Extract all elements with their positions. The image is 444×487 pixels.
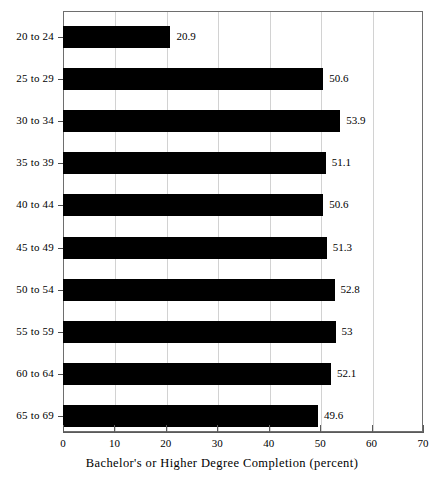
bar-row: 52.8 — [63, 279, 423, 301]
bar-row: 49.6 — [63, 405, 423, 427]
bar-row: 52.1 — [63, 363, 423, 385]
bar — [63, 110, 340, 132]
bar-row: 50.6 — [63, 68, 423, 90]
bar-value-label: 50.6 — [329, 72, 348, 85]
x-axis-tick-mark — [63, 425, 64, 432]
bar-row: 53 — [63, 321, 423, 343]
bar-row: 51.1 — [63, 152, 423, 174]
y-axis-tick-mark — [58, 248, 63, 249]
x-axis-tick-mark — [166, 425, 167, 432]
bar-value-label: 51.1 — [332, 156, 351, 169]
x-axis-tick-mark — [372, 425, 373, 432]
bar-row: 20.9 — [63, 26, 423, 48]
bar-value-label: 49.6 — [324, 409, 343, 422]
y-axis-tick-label: 40 to 44 — [16, 198, 54, 211]
y-axis-tick-mark — [58, 290, 63, 291]
x-axis-tick-label: 20 — [160, 437, 171, 450]
bar-value-label: 52.1 — [337, 367, 356, 380]
bar — [63, 152, 326, 174]
bar — [63, 68, 323, 90]
y-axis-tick-label: 55 to 59 — [16, 325, 54, 338]
x-axis-tick-mark — [269, 425, 270, 432]
x-axis-tick-label: 0 — [60, 437, 66, 450]
x-axis-title: Bachelor's or Higher Degree Completion (… — [0, 455, 444, 471]
x-axis-tick-label: 40 — [263, 437, 274, 450]
bar — [63, 26, 170, 48]
x-axis-tick-mark — [217, 425, 218, 432]
bar — [63, 237, 327, 259]
x-axis-tick-mark — [320, 425, 321, 432]
y-axis-tick-label: 35 to 39 — [16, 156, 54, 169]
y-axis-tick-label: 60 to 64 — [16, 367, 54, 380]
y-axis-tick-label: 20 to 24 — [16, 30, 54, 43]
bar-row: 50.6 — [63, 194, 423, 216]
y-axis-tick-mark — [58, 163, 63, 164]
bar-value-label: 53.9 — [346, 114, 365, 127]
y-axis-tick-mark — [58, 121, 63, 122]
y-axis-tick-mark — [58, 205, 63, 206]
bars-layer: 20.950.653.951.150.651.352.85352.149.6 — [63, 11, 423, 432]
y-axis-tick-mark — [58, 332, 63, 333]
x-axis-tick-mark — [423, 425, 424, 432]
y-axis-tick-mark — [58, 374, 63, 375]
x-axis-tick-label: 70 — [418, 437, 429, 450]
x-axis-tick-label: 10 — [109, 437, 120, 450]
y-axis-tick-label: 65 to 69 — [16, 409, 54, 422]
bar — [63, 321, 336, 343]
y-axis-labels: 20 to 2425 to 2930 to 3435 to 3940 to 44… — [0, 11, 63, 432]
bar-row: 53.9 — [63, 110, 423, 132]
x-axis-tick-label: 60 — [366, 437, 377, 450]
bar — [63, 279, 335, 301]
y-axis-tick-label: 30 to 34 — [16, 114, 54, 127]
y-axis-tick-label: 50 to 54 — [16, 283, 54, 296]
bar — [63, 363, 331, 385]
x-axis-tick-label: 50 — [315, 437, 326, 450]
bar — [63, 194, 323, 216]
bar — [63, 405, 318, 427]
y-axis-tick-mark — [58, 416, 63, 417]
bar-row: 51.3 — [63, 237, 423, 259]
y-axis-tick-label: 25 to 29 — [16, 72, 54, 85]
bar-value-label: 53 — [342, 325, 353, 338]
bar-value-label: 50.6 — [329, 198, 348, 211]
y-axis-tick-mark — [58, 37, 63, 38]
bar-chart: 20.950.653.951.150.651.352.85352.149.6 2… — [0, 0, 444, 487]
x-axis-tick-mark — [114, 425, 115, 432]
bar-value-label: 20.9 — [176, 30, 195, 43]
bar-value-label: 52.8 — [341, 283, 360, 296]
x-axis-tick-label: 30 — [212, 437, 223, 450]
y-axis-tick-label: 45 to 49 — [16, 241, 54, 254]
y-axis-tick-mark — [58, 79, 63, 80]
bar-value-label: 51.3 — [333, 241, 352, 254]
x-axis-line — [63, 432, 424, 433]
